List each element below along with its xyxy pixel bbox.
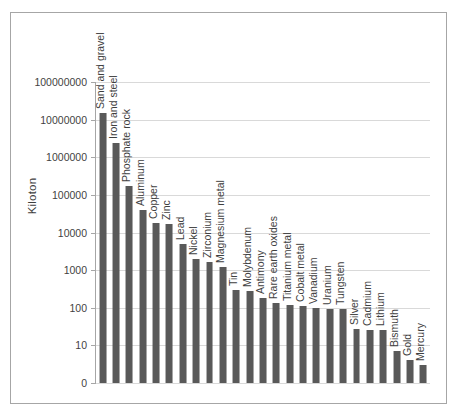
y-tick-label: 100000 <box>52 189 87 201</box>
bar-category-label: Tungsten <box>335 262 346 305</box>
bar-category-label: Copper <box>148 184 159 218</box>
y-tick-label: 1000000 <box>46 151 87 163</box>
bar <box>380 330 387 383</box>
bar-category-label: Rare earth oxides <box>268 217 279 300</box>
bar-category-label: Molybdenum <box>241 227 252 287</box>
bar-category-label: Antimony <box>255 250 266 294</box>
bar <box>219 267 226 383</box>
y-tick-label: 100 <box>69 302 87 314</box>
bar-slot: Copper <box>149 82 162 383</box>
bar-slot: Magnesium metal <box>216 82 229 383</box>
bar-slot: Uranium <box>323 82 336 383</box>
bar <box>99 113 106 383</box>
gridline <box>96 383 430 384</box>
bar <box>406 360 413 383</box>
bar-slot: Phosphate rock <box>123 82 136 383</box>
bar-category-label: Magnesium metal <box>215 180 226 263</box>
bar <box>340 309 347 383</box>
bar <box>126 186 133 383</box>
bar-slot: Aluminum <box>136 82 149 383</box>
bar-category-label: Iron and steel <box>108 75 119 139</box>
bar-category-label: Zinc <box>161 200 172 220</box>
bar <box>193 259 200 383</box>
bar <box>139 210 146 383</box>
bar-category-label: Tin <box>228 272 239 286</box>
bar-category-label: Cadmium <box>362 281 373 326</box>
y-tick-label: 10000000 <box>40 114 87 126</box>
bar <box>393 351 400 383</box>
bar <box>153 223 160 383</box>
bar-category-label: Lithium <box>375 293 386 327</box>
plot-area: 1000000001000000010000001000001000010001… <box>96 82 430 383</box>
bar-category-label: Nickel <box>188 226 199 255</box>
bar <box>286 305 293 383</box>
bar-category-label: Sand and gravel <box>94 33 105 109</box>
y-axis-title: Kiloton <box>26 136 38 256</box>
y-tick-label: 10 <box>75 339 87 351</box>
bar-category-label: Cobalt metal <box>295 243 306 302</box>
bar-category-label: Titanium metal <box>281 232 292 300</box>
bar <box>166 224 173 383</box>
bar-category-label: Bismuth <box>388 309 399 347</box>
y-tick-mark <box>91 383 96 384</box>
bar-slot: Mercury <box>417 82 430 383</box>
bar-category-label: Zirconium <box>201 212 212 258</box>
bar-slot: Vanadium <box>310 82 323 383</box>
bar-category-label: Uranium <box>322 265 333 305</box>
bar-category-label: Phosphate rock <box>121 109 132 182</box>
bar-category-label: Gold <box>402 334 413 356</box>
bar <box>353 329 360 383</box>
bar <box>300 306 307 383</box>
bar <box>420 365 427 383</box>
bar-slot: Cadmium <box>363 82 376 383</box>
bar <box>273 303 280 383</box>
bar-slot: Molybdenum <box>243 82 256 383</box>
bar <box>326 309 333 383</box>
bar-slot: Tungsten <box>336 82 349 383</box>
bar <box>260 298 267 383</box>
y-tick-label: 1000 <box>64 264 87 276</box>
bar-slot: Titanium metal <box>283 82 296 383</box>
bar-category-label: Lead <box>175 216 186 239</box>
bar-slot: Silver <box>350 82 363 383</box>
bar <box>313 308 320 383</box>
y-tick-label: 0 <box>81 377 87 389</box>
bar <box>113 143 120 383</box>
bar-category-label: Mercury <box>415 323 426 361</box>
bar-category-label: Vanadium <box>308 257 319 304</box>
bar <box>366 330 373 383</box>
bar <box>233 290 240 383</box>
bar <box>179 244 186 383</box>
y-tick-label: 10000 <box>58 227 87 239</box>
chart-figure: Kiloton 10000000010000000100000010000010… <box>0 0 457 416</box>
y-tick-label: 100000000 <box>34 76 87 88</box>
bar <box>206 262 213 383</box>
bar <box>246 291 253 383</box>
bar-category-label: Silver <box>348 299 359 325</box>
bar-category-label: Aluminum <box>135 160 146 207</box>
bar-slot: Cobalt metal <box>296 82 309 383</box>
